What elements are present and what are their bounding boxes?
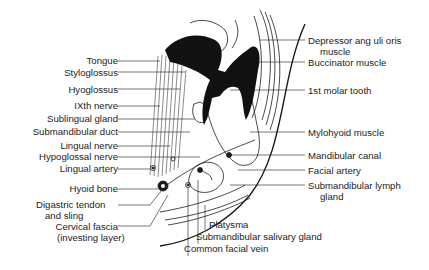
label-cervical-fascia-2: (investing layer) — [57, 232, 125, 243]
label-sublingual-gland: Sublingual gland — [47, 113, 118, 124]
label-lingual-nerve: Lingual nerve — [60, 140, 118, 151]
label-lymph-gland: Submandibular lymph — [308, 180, 401, 191]
label-cervical-fascia: Cervical fascia — [56, 221, 118, 232]
label-digastric-tendon: Digastric tendon — [36, 199, 105, 210]
label-depressor: Depressor ang uli oris — [308, 35, 401, 46]
label-buccinator: Buccinator muscle — [308, 57, 386, 68]
label-ixth-nerve: IXth nerve — [74, 100, 118, 111]
label-tongue: Tongue — [87, 55, 118, 66]
label-submandibular-duct: Submandibular duct — [33, 126, 118, 137]
label-lingual-artery: Lingual artery — [60, 163, 118, 174]
label-depressor-2: muscle — [320, 46, 350, 57]
label-styloglossus: Styloglossus — [64, 67, 118, 78]
label-hyoid-bone: Hyoid bone — [69, 183, 118, 194]
label-facial-artery: Facial artery — [308, 165, 361, 176]
label-mylohyoid: Mylohyoid muscle — [308, 127, 384, 138]
label-lymph-gland-2: gland — [320, 191, 343, 202]
label-hyoglossus: Hyoglossus — [68, 84, 118, 95]
bone-mass — [165, 35, 260, 125]
label-molar: 1st molar tooth — [308, 85, 371, 96]
salivary-gland-shape — [189, 162, 224, 192]
label-digastric-tendon-2: and sling — [45, 210, 83, 221]
label-mandibular-canal: Mandibular canal — [308, 150, 381, 161]
label-salivary-gland: Submandibular salivary gland — [196, 231, 322, 242]
label-hypoglossal-nerve: Hypoglossal nerve — [39, 151, 118, 162]
label-facial-vein: Common facial vein — [184, 243, 268, 254]
label-platysma: Platysma — [209, 219, 248, 230]
